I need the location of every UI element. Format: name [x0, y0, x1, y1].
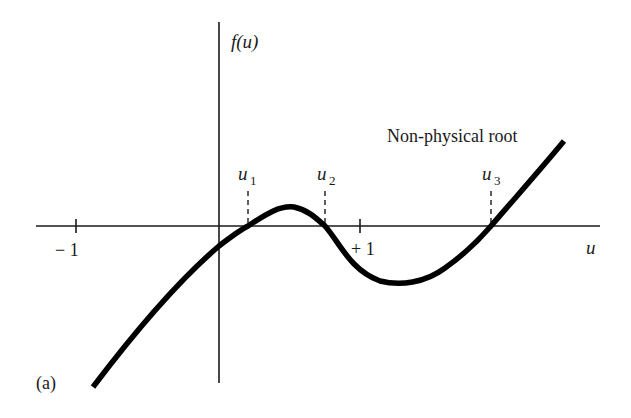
tick-label-minus-one: − 1 [55, 240, 79, 260]
plot-canvas: f(u) u − 1 + 1 u 1 u 2 u 3 Non-physical … [0, 0, 631, 418]
svg-text:3: 3 [494, 173, 501, 188]
non-physical-root-annotation: Non-physical root [387, 126, 517, 146]
root-label-u3: u 3 [482, 163, 501, 188]
root-label-u2: u 2 [317, 163, 336, 188]
root-plot-figure: f(u) u − 1 + 1 u 1 u 2 u 3 Non-physical … [0, 0, 631, 418]
y-axis-label: f(u) [231, 31, 258, 53]
svg-text:u: u [482, 163, 492, 184]
svg-text:1: 1 [250, 173, 257, 188]
svg-text:u: u [317, 163, 327, 184]
x-axis-label: u [586, 237, 596, 258]
svg-text:u: u [238, 163, 248, 184]
svg-text:2: 2 [329, 173, 336, 188]
root-label-u1: u 1 [238, 163, 257, 188]
panel-label: (a) [36, 373, 56, 394]
tick-label-plus-one: + 1 [351, 239, 375, 259]
